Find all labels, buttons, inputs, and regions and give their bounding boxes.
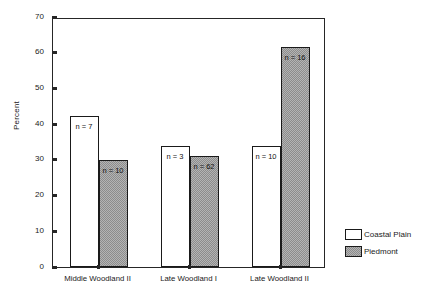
x-axis-category-label: Late Woodland I bbox=[160, 274, 217, 283]
bar-chart-figure: Percent 010203040506070 n = 7n = 10n = 3… bbox=[0, 0, 427, 297]
bar: n = 16 bbox=[281, 47, 310, 267]
bar-value-label: n = 7 bbox=[71, 122, 98, 131]
bar-value-label: n = 10 bbox=[100, 166, 127, 175]
plot-area: 010203040506070 n = 7n = 10n = 3n = 62n … bbox=[52, 18, 325, 268]
chart-legend: Coastal Plain Piedmont bbox=[345, 229, 423, 263]
bar-value-label: n = 62 bbox=[191, 162, 218, 171]
bar-group: n = 7n = 10 bbox=[70, 116, 128, 267]
legend-label-piedmont: Piedmont bbox=[364, 247, 398, 256]
y-axis-tick-label: 70 bbox=[35, 12, 44, 21]
bar-value-label: n = 16 bbox=[282, 53, 309, 62]
legend-item-coastal-plain: Coastal Plain bbox=[345, 229, 423, 240]
y-axis-tick-label: 20 bbox=[35, 190, 44, 199]
y-axis-tick-label: 10 bbox=[35, 226, 44, 235]
bar: n = 10 bbox=[252, 146, 281, 267]
bar-value-label: n = 3 bbox=[162, 152, 189, 161]
bar-group: n = 10n = 16 bbox=[252, 47, 310, 267]
bar-value-label: n = 10 bbox=[253, 152, 280, 161]
bar: n = 10 bbox=[99, 160, 128, 267]
x-axis-category-labels: Middle Woodland IILate Woodland ILate Wo… bbox=[52, 274, 325, 288]
y-axis-label: Percent bbox=[12, 116, 21, 130]
x-axis-tick-mark bbox=[279, 265, 282, 269]
bar: n = 3 bbox=[161, 146, 190, 267]
y-axis-tick-label: 40 bbox=[35, 119, 44, 128]
white-square-icon bbox=[345, 229, 362, 240]
y-axis-tick-label: 50 bbox=[35, 83, 44, 92]
legend-label-coastal-plain: Coastal Plain bbox=[364, 230, 411, 239]
bar: n = 7 bbox=[70, 116, 99, 267]
bar-group: n = 3n = 62 bbox=[161, 146, 219, 267]
x-axis-category-label: Middle Woodland II bbox=[64, 274, 131, 283]
x-axis-tick-mark bbox=[97, 265, 100, 269]
bar-series-container: n = 7n = 10n = 3n = 62n = 10n = 16 bbox=[53, 19, 324, 267]
y-axis-tick-label: 30 bbox=[35, 154, 44, 163]
bar: n = 62 bbox=[190, 156, 219, 267]
x-axis-category-label: Late Woodland II bbox=[250, 274, 309, 283]
legend-item-piedmont: Piedmont bbox=[345, 246, 423, 257]
y-axis-tick-label: 0 bbox=[40, 262, 44, 271]
y-axis-tick-label: 60 bbox=[35, 47, 44, 56]
x-axis-tick-mark bbox=[188, 265, 191, 269]
gray-hatched-square-icon bbox=[345, 246, 362, 257]
